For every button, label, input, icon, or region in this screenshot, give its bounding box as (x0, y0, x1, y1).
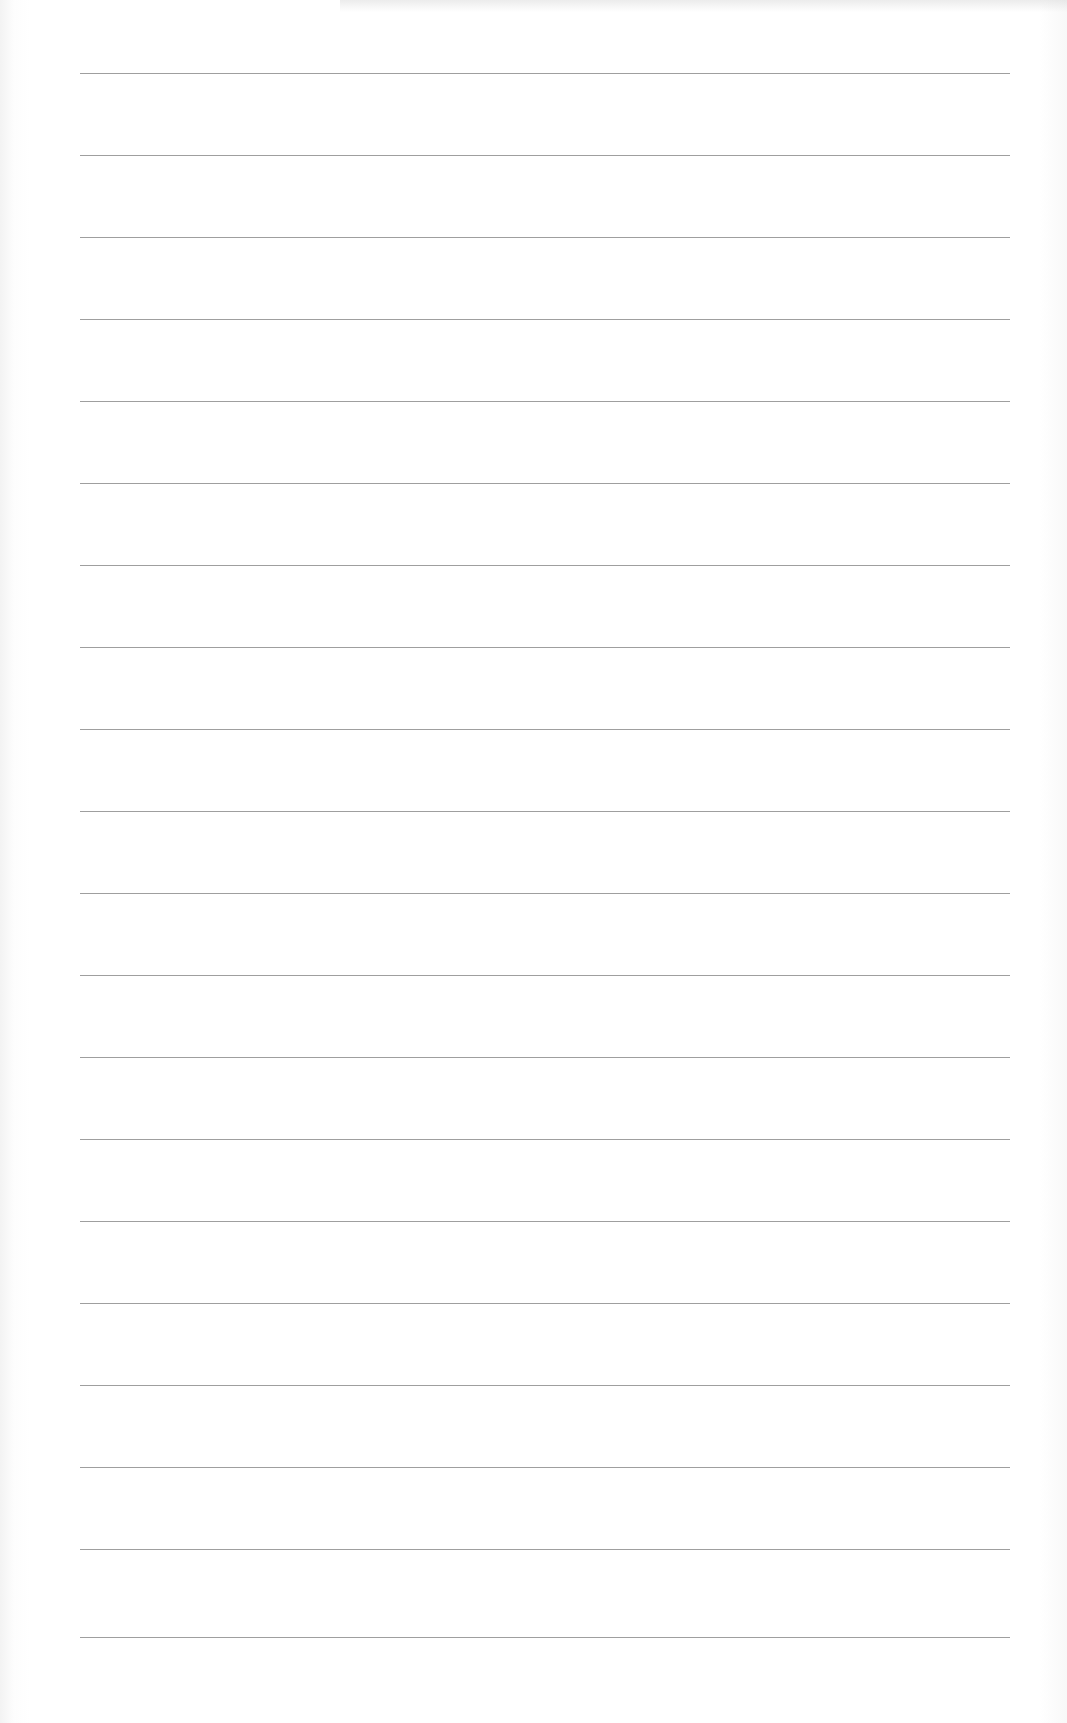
ruled-line (80, 319, 1010, 320)
lined-paper-page (0, 0, 1067, 1723)
ruled-line (80, 1385, 1010, 1386)
ruled-line (80, 1139, 1010, 1140)
ruled-line (80, 155, 1010, 156)
ruled-line (80, 975, 1010, 976)
ruled-line (80, 1303, 1010, 1304)
ruled-line (80, 401, 1010, 402)
ruled-line (80, 565, 1010, 566)
ruled-line (80, 1549, 1010, 1550)
ruled-line (80, 811, 1010, 812)
ruled-line (80, 647, 1010, 648)
ruled-line (80, 1221, 1010, 1222)
ruled-line (80, 1057, 1010, 1058)
ruled-line (80, 729, 1010, 730)
ruled-line (80, 893, 1010, 894)
page-bleed-through (340, 0, 1067, 12)
ruled-line (80, 483, 1010, 484)
ruled-line (80, 73, 1010, 74)
ruled-line (80, 237, 1010, 238)
ruled-line (80, 1637, 1010, 1638)
ruled-line (80, 1467, 1010, 1468)
